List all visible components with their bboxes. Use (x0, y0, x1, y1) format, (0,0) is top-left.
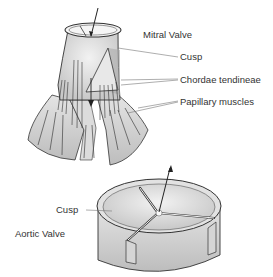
aortic-valve-title: Aortic Valve (15, 228, 65, 239)
aortic-valve-drawing (97, 165, 221, 271)
aortic-cusp-label: Cusp (56, 204, 78, 215)
mitral-valve-title: Mitral Valve (143, 29, 192, 40)
mitral-cusp-label: Cusp (180, 51, 202, 62)
papillary-muscles-label: Papillary muscles (180, 96, 254, 107)
mitral-valve-drawing (28, 8, 148, 165)
chordae-tendineae-label: Chordae tendineae (180, 74, 261, 85)
